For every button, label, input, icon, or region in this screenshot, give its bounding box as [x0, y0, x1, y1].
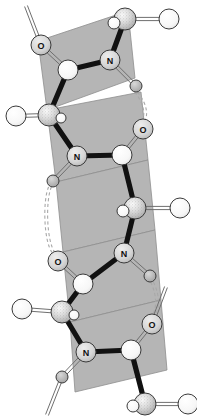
carbon-atom [112, 145, 132, 165]
oxygen-atom [142, 314, 162, 334]
hydrogen-atom [117, 205, 129, 217]
molecular-diagram: ONONONON [0, 0, 197, 419]
peptide-plane-group [38, 11, 167, 392]
alpha-helix-svg: ONONONON [0, 0, 197, 419]
carbon-atom [121, 340, 141, 360]
hydrogen-atom [144, 270, 156, 282]
hydrogen-atom [69, 310, 79, 320]
hydrogen-atom [56, 113, 66, 123]
carbon-atom [73, 274, 93, 294]
hydrogen-atom [170, 198, 190, 218]
alpha-carbon-stipple [39, 105, 60, 126]
hydrogen-atom [108, 17, 120, 29]
oxygen-atom [31, 35, 51, 55]
carbon-atom [58, 60, 78, 80]
hydrogen-atom [6, 106, 26, 126]
hydrogen-atom [12, 299, 32, 319]
hydrogen-atom [178, 394, 197, 414]
hydrogen-atom [47, 175, 59, 187]
nitrogen-atom [114, 243, 134, 263]
hydrogen-bond [48, 187, 56, 253]
hydrogen-bond [45, 187, 53, 253]
alpha-carbon-stipple [52, 302, 73, 323]
hydrogen-atom [159, 9, 179, 29]
nitrogen-atom [76, 342, 96, 362]
hydrogen-atom [56, 371, 68, 383]
nitrogen-atom [67, 146, 87, 166]
hydrogen-atom [127, 400, 139, 412]
nitrogen-atom [100, 50, 120, 70]
oxygen-atom [133, 119, 153, 139]
hydrogen-atom [130, 80, 142, 92]
oxygen-atom [48, 251, 68, 271]
